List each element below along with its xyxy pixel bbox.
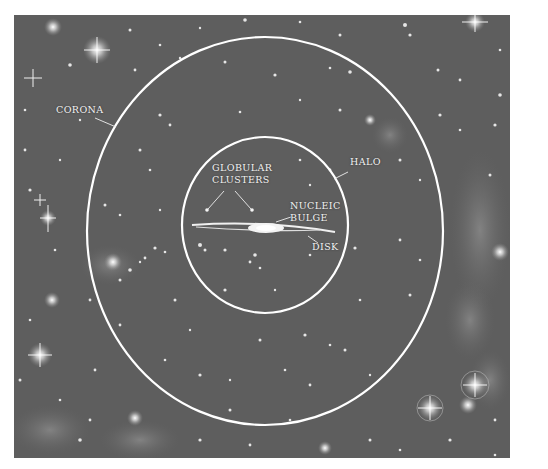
- disk-label: DISK: [312, 241, 339, 253]
- globular-leader-line-right: [235, 191, 251, 209]
- galaxy-disk-shape: [192, 223, 335, 233]
- globular-clusters-label-line2: CLUSTERS: [212, 174, 270, 186]
- globular-clusters-label-line1: GLOBULAR: [212, 162, 272, 174]
- globular-leader-line-left: [208, 191, 224, 209]
- corona-label: CORONA: [56, 104, 104, 116]
- corona-leader-line: [95, 118, 116, 127]
- stars-layer: [10, 12, 510, 460]
- halo-label: HALO: [350, 156, 381, 168]
- nucleic-bulge-label-line2: BULGE: [290, 212, 328, 224]
- halo-leader-line: [334, 172, 348, 179]
- bulge-leader-line: [276, 217, 291, 222]
- galaxy-diagram: [0, 0, 548, 469]
- nucleic-bulge-label-line1: NUCLEIC: [290, 200, 341, 212]
